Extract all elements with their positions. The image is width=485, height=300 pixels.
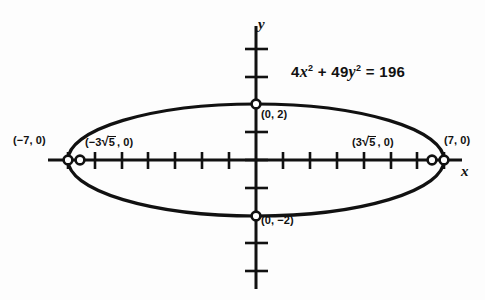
point-top-vertex xyxy=(252,100,261,109)
equation-rhs: 196 xyxy=(379,63,405,80)
label-right-focus-radicand: 5 xyxy=(368,136,376,149)
label-right-vertex: (7, 0) xyxy=(444,134,470,146)
equation-var-x: x xyxy=(300,63,308,80)
label-right-focus-post: , 0) xyxy=(377,136,393,148)
label-right-focus: (3√5, 0) xyxy=(352,134,394,149)
equation-var-y: y xyxy=(349,63,356,80)
y-axis-label: y xyxy=(258,16,265,33)
label-left-focus: (−3√5, 0) xyxy=(85,134,133,149)
sqrt-icon: √5 xyxy=(102,134,117,149)
point-left-focus xyxy=(76,156,85,165)
label-left-focus-post: , 0) xyxy=(117,136,133,148)
equation-plus: + xyxy=(318,63,327,80)
point-right-focus xyxy=(428,156,437,165)
ellipse-plot xyxy=(0,0,485,300)
x-axis-label: x xyxy=(461,163,469,180)
equation-equals: = xyxy=(366,63,375,80)
equation-annotation: 4x2 + 49y2 = 196 xyxy=(291,63,405,81)
equation-coef-y: 49 xyxy=(331,63,348,80)
point-bottom-vertex xyxy=(252,212,261,221)
label-left-focus-pre: (−3 xyxy=(85,136,102,148)
label-left-vertex: (−7, 0) xyxy=(13,134,46,146)
label-bottom-vertex: (0, −2) xyxy=(261,214,294,226)
equation-exp-x: 2 xyxy=(308,63,313,73)
label-left-focus-radicand: 5 xyxy=(108,136,116,149)
label-top-vertex: (0, 2) xyxy=(261,108,287,120)
equation-coef-x: 4 xyxy=(291,63,300,80)
sqrt-icon: √5 xyxy=(362,134,377,149)
label-right-focus-pre: (3 xyxy=(352,136,362,148)
point-left-vertex xyxy=(64,156,73,165)
figure-canvas: 4x2 + 49y2 = 196 (−7, 0) (−3√5, 0) (3√5,… xyxy=(0,0,485,300)
equation-exp-y: 2 xyxy=(356,63,361,73)
point-right-vertex xyxy=(440,156,449,165)
